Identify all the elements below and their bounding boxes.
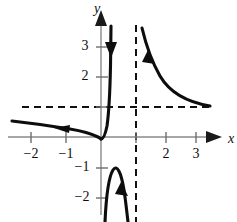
axes-group xyxy=(8,10,222,215)
arrow-lower-branch-icon xyxy=(115,182,128,196)
function-graph-figure: −2 −1 2 3 3 2 −1 −2 x y xyxy=(0,0,237,222)
y-tick-label-neg1: −1 xyxy=(75,159,90,174)
arrow-near-origin-branch-icon xyxy=(105,42,117,58)
x-axis-label: x xyxy=(227,131,235,146)
x-tick-label-neg1: −1 xyxy=(59,146,74,161)
arrow-upper-right-branch-icon xyxy=(142,50,155,64)
y-tick-label-2: 2 xyxy=(82,68,89,83)
y-tick-label-neg2: −2 xyxy=(75,189,90,204)
x-tick-label-3: 3 xyxy=(193,146,200,161)
x-tick-label-neg2: −2 xyxy=(24,146,39,161)
y-axis-label: y xyxy=(92,1,101,16)
x-tick-label-2: 2 xyxy=(163,146,170,161)
plot-canvas: −2 −1 2 3 3 2 −1 −2 x y xyxy=(0,0,237,222)
x-axis-arrowhead xyxy=(206,131,222,143)
direction-arrows-group xyxy=(54,42,155,196)
upper-right-branch-curve xyxy=(142,28,210,106)
tick-marks-group xyxy=(31,47,196,198)
axis-labels-group: x y xyxy=(92,1,235,146)
y-tick-label-3: 3 xyxy=(82,38,89,53)
